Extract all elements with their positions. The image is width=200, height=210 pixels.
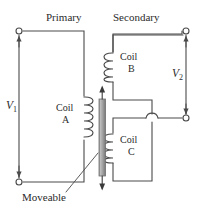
coil-b-top-lead xyxy=(113,35,183,52)
primary-bottom-terminal xyxy=(16,179,22,185)
coil-a-winding xyxy=(84,97,93,137)
primary-label: Primary xyxy=(46,12,81,24)
coil-a-label-line1: Coil xyxy=(56,103,73,114)
v2-label: V2 xyxy=(172,67,183,83)
primary-top-terminal xyxy=(16,28,22,34)
moveable-core[interactable] xyxy=(99,86,106,191)
secondary-label: Secondary xyxy=(113,12,159,24)
coil-b-label-line1: Coil xyxy=(120,52,137,63)
v2-symbol: V xyxy=(172,67,179,79)
moveable-label: Moveable xyxy=(22,192,66,204)
secondary-bottom-terminal xyxy=(183,115,189,121)
primary-top-wire xyxy=(23,31,84,96)
figure-canvas: Primary Secondary Coil A Coil B Coil C V… xyxy=(0,0,200,210)
v1-label: V1 xyxy=(6,99,17,115)
v1-symbol: V xyxy=(6,99,13,111)
secondary-top-terminal xyxy=(183,28,189,34)
coil-b-bottom-wire xyxy=(113,82,152,114)
v2-subscript: 2 xyxy=(179,73,183,82)
coil-b-top-wire xyxy=(113,31,182,52)
coil-c-top-wire xyxy=(113,118,146,133)
v1-subscript: 1 xyxy=(13,105,17,114)
moveable-leader-line xyxy=(66,153,98,192)
secondary-coil-c-circuit xyxy=(113,113,182,181)
primary-circuit xyxy=(19,31,84,182)
coil-c-label-line2: C xyxy=(128,147,135,158)
circuit-diagram-svg xyxy=(0,0,200,210)
coil-c-label-line1: Coil xyxy=(120,135,137,146)
coil-b-winding xyxy=(104,53,113,82)
coil-a-label-line2: A xyxy=(62,115,69,126)
coil-b-label-line2: B xyxy=(128,64,135,75)
primary-bottom-wire xyxy=(23,140,84,182)
